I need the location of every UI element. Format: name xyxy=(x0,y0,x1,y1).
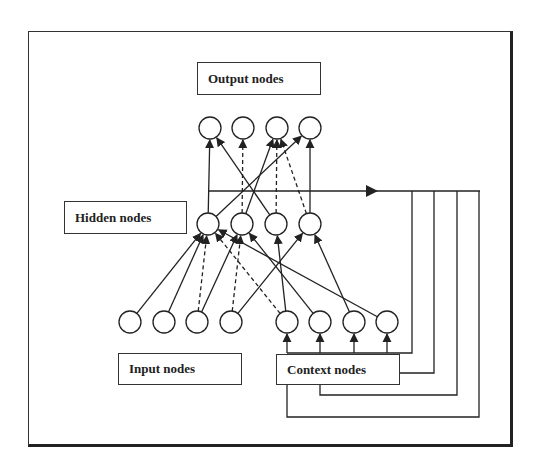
network-edges xyxy=(137,136,378,316)
network-graph xyxy=(0,0,545,472)
input-node-I2 xyxy=(153,311,175,333)
feedback-line-2 xyxy=(400,191,434,373)
edge-H1-O4 xyxy=(216,136,301,216)
edge-I2-H1 xyxy=(169,235,204,312)
output-node-O2 xyxy=(232,117,254,139)
edge-I4-H2 xyxy=(232,236,240,311)
edge-H1-O1 xyxy=(208,140,210,213)
context-node-C4 xyxy=(376,311,398,333)
edge-C3-H4 xyxy=(315,235,350,312)
edge-I3-H2 xyxy=(202,235,237,312)
edge-C4-H1 xyxy=(219,230,378,317)
edge-H4-O3 xyxy=(281,139,307,213)
input-node-I4 xyxy=(220,311,242,333)
edge-H3-O3 xyxy=(276,140,277,213)
context-node-C3 xyxy=(343,311,365,333)
hidden-node-H4 xyxy=(299,213,321,235)
edge-C2-H2 xyxy=(249,233,313,313)
input-node-I1 xyxy=(119,311,141,333)
output-node-O4 xyxy=(299,117,321,139)
output-node-O3 xyxy=(266,117,288,139)
hidden-node-H2 xyxy=(231,213,253,235)
diagram-canvas: Output nodes Hidden nodes Input nodes Co… xyxy=(0,0,545,472)
network-nodes xyxy=(119,117,398,333)
edge-I3-H1 xyxy=(198,236,206,311)
edge-H2-O3 xyxy=(246,139,273,213)
context-node-C1 xyxy=(276,311,298,333)
edge-I1-H1 xyxy=(137,233,201,313)
feedback-arrow-icon xyxy=(366,185,378,197)
input-node-I3 xyxy=(186,311,208,333)
output-node-O1 xyxy=(199,117,221,139)
context-node-C2 xyxy=(309,311,331,333)
hidden-node-H3 xyxy=(265,213,287,235)
hidden-node-H1 xyxy=(197,213,219,235)
